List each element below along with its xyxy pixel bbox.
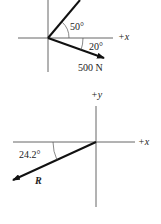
upper-force-vector (48, 0, 80, 38)
resultant-label: R (35, 176, 42, 186)
angle-20-label: 20° (89, 42, 103, 52)
angle-arc-24 (53, 142, 57, 160)
angle-arc-50 (62, 22, 69, 38)
top-x-axis-label: +x (118, 32, 129, 42)
bottom-y-axis-label: +y (91, 90, 102, 100)
vector-diagrams (0, 0, 161, 224)
angle-arc-20 (81, 38, 83, 50)
resultant-vector (13, 142, 96, 180)
bottom-x-axis-label: +x (138, 137, 149, 147)
angle-50-label: 50° (70, 22, 84, 32)
force-500n-label: 500 N (78, 63, 103, 73)
angle-24-label: 24.2° (19, 150, 41, 160)
